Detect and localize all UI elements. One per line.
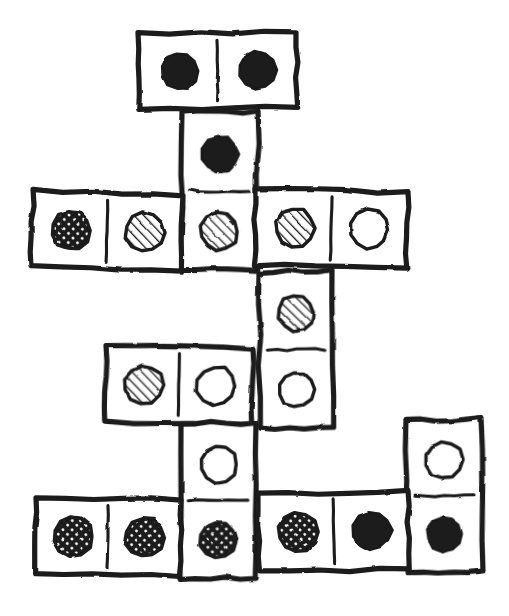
domino-board xyxy=(0,0,509,616)
domino-top-horizontal-solid-solid[interactable] xyxy=(138,31,299,110)
pip-crosshatch xyxy=(278,512,319,552)
domino-divider xyxy=(333,499,335,564)
pip-striped xyxy=(200,212,237,251)
pip-empty xyxy=(196,367,235,406)
domino-divider xyxy=(217,40,218,101)
pip-striped xyxy=(278,296,314,332)
pip-solid xyxy=(162,53,199,89)
pip-empty xyxy=(426,442,464,478)
domino-divider xyxy=(107,506,109,569)
pip-crosshatch xyxy=(54,517,92,557)
pip-striped xyxy=(275,209,315,248)
pip-empty xyxy=(280,373,315,407)
domino-divider xyxy=(188,500,248,501)
domino-vertical-solid-striped[interactable] xyxy=(180,110,259,270)
domino-bottom-left-horizontal-crosshatch-crosshatch[interactable] xyxy=(34,496,182,577)
pip-empty xyxy=(201,446,236,483)
pip-crosshatch xyxy=(200,523,237,558)
domino-divider xyxy=(190,190,250,192)
domino-vertical-empty-crosshatch[interactable] xyxy=(179,421,257,580)
domino-row2-right-horizontal-striped-empty[interactable] xyxy=(253,187,409,269)
drawing-canvas xyxy=(0,0,509,616)
domino-row3-horizontal-striped-empty[interactable] xyxy=(104,344,254,425)
domino-row2-left-horizontal-crosshatch-striped[interactable] xyxy=(30,189,184,271)
pip-striped xyxy=(124,366,164,404)
pip-crosshatch xyxy=(52,211,91,249)
domino-divider xyxy=(330,197,332,260)
domino-right-vertical-empty-solid[interactable] xyxy=(404,417,484,573)
domino-bottom-middle-horizontal-crosshatch-solid[interactable] xyxy=(257,490,411,573)
domino-divider xyxy=(178,353,179,415)
domino-vertical-striped-empty[interactable] xyxy=(257,270,334,430)
domino-divider xyxy=(106,200,108,262)
pip-crosshatch xyxy=(124,518,164,556)
